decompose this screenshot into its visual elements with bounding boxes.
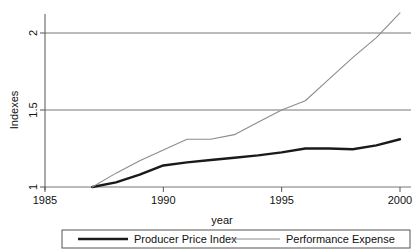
x-axis-ticks-group: 1985199019952000 bbox=[33, 187, 412, 206]
y-tick-label-2: 2 bbox=[27, 30, 39, 36]
y-axis-ticks-group: 11.52 bbox=[27, 30, 45, 190]
chart-canvas: 11.52 1985199019952000 Indexes year Prod… bbox=[0, 0, 413, 250]
legend-entries-group: Producer Price IndexPerformance Expense bbox=[78, 233, 395, 245]
y-tick-label-1: 1.5 bbox=[27, 102, 39, 117]
y-axis-title: Indexes bbox=[8, 90, 20, 129]
legend-label-0: Producer Price Index bbox=[134, 233, 237, 245]
x-tick-label-2: 1995 bbox=[269, 194, 293, 206]
x-tick-label-1: 1990 bbox=[151, 194, 175, 206]
series-line-performance-expense bbox=[92, 13, 400, 187]
chart-container: 11.52 1985199019952000 Indexes year Prod… bbox=[0, 0, 413, 250]
gridlines-group bbox=[45, 33, 411, 187]
x-tick-label-0: 1985 bbox=[33, 194, 57, 206]
series-line-producer-price-index bbox=[92, 139, 400, 187]
series-paths-group bbox=[92, 13, 400, 187]
y-tick-label-0: 1 bbox=[27, 184, 39, 190]
legend-label-1: Performance Expense bbox=[286, 233, 395, 245]
x-tick-label-3: 2000 bbox=[388, 194, 412, 206]
x-axis-title: year bbox=[211, 214, 233, 226]
